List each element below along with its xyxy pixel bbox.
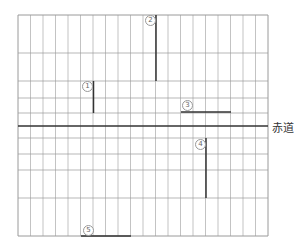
segment-label-5: 5	[83, 225, 94, 236]
segment-number-badge: 5	[83, 225, 94, 236]
segment-number-badge: 2	[145, 15, 156, 26]
segment-label-3: 3	[182, 100, 193, 111]
map-grid	[0, 0, 306, 250]
segment-number-badge: 4	[195, 139, 206, 150]
segment-number-badge: 3	[182, 100, 193, 111]
segment-number-badge: 1	[82, 81, 93, 92]
equator-label: 赤道	[272, 119, 294, 135]
segment-label-2: 2	[145, 15, 156, 26]
segment-label-4: 4	[195, 139, 206, 150]
segment-label-1: 1	[82, 81, 93, 92]
